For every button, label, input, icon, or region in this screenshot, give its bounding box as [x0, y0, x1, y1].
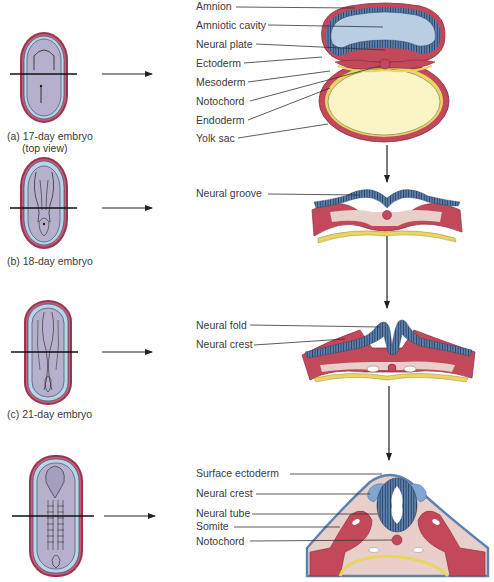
label-mesoderm: Mesoderm — [196, 76, 246, 88]
cross-section-d — [307, 475, 488, 576]
embryo-top-view-c — [11, 300, 78, 405]
label-neural-crest-d: Neural crest — [196, 487, 253, 499]
endoderm-c — [314, 373, 468, 382]
label-amnion: Amnion — [196, 0, 232, 12]
label-yolk-sac: Yolk sac — [196, 132, 235, 144]
label-neural-plate: Neural plate — [196, 38, 253, 50]
notochord — [380, 59, 390, 69]
cross-section-b — [312, 190, 462, 243]
notochord-b — [383, 211, 392, 220]
label-surface-ectoderm: Surface ectoderm — [196, 467, 279, 479]
label-endoderm: Endoderm — [196, 114, 245, 126]
caption-c: (c) 21-day embryo — [7, 408, 92, 420]
label-notochord: Notochord — [196, 95, 245, 107]
label-amniotic-cavity: Amniotic cavity — [196, 19, 267, 31]
label-notochord-d: Notochord — [196, 535, 245, 547]
caption-b: (b) 18-day embryo — [7, 255, 93, 267]
label-neural-crest-c: Neural crest — [196, 338, 253, 350]
embryo-top-view-d — [12, 455, 94, 577]
label-somite: Somite — [196, 520, 229, 532]
cross-section-a — [319, 3, 449, 142]
caption-a-line1: (a) 17-day embryo — [7, 130, 93, 142]
caption-a-line2: (top view) — [22, 142, 68, 154]
label-neural-tube: Neural tube — [196, 507, 250, 519]
label-neural-fold: Neural fold — [196, 319, 247, 331]
label-ectoderm: Ectoderm — [196, 57, 241, 69]
label-neural-groove: Neural groove — [196, 187, 262, 199]
yolk — [328, 69, 440, 135]
embryo-top-view-b — [10, 157, 77, 249]
embryo-top-view-a — [10, 32, 77, 123]
labels-stage-b: Neural groove — [196, 187, 360, 199]
neural-tube-development-diagram: (a) 17-day embryo (top view) (b) 18-day … — [0, 0, 494, 582]
notochord-d — [392, 535, 402, 545]
cross-section-c — [302, 320, 475, 382]
notochord-c — [388, 364, 396, 372]
